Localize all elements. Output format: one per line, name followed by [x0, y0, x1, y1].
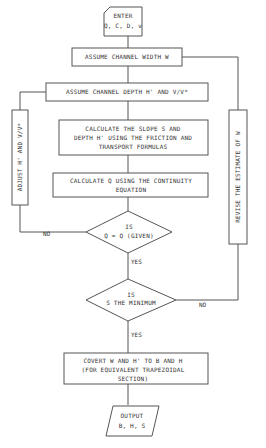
decision-q-diamond: IS Q = Q (GIVEN) — [86, 211, 172, 253]
assume-depth-label: ASSUME CHANNEL DEPTH H' AND V/V* — [66, 88, 188, 95]
assume-width-label: ASSUME CHANNEL WIDTH W — [85, 53, 169, 60]
adjust-box: ADJUST H' AND V/V* — [12, 110, 28, 205]
decision-q-no-label: NO — [43, 230, 51, 237]
assume-width-box: ASSUME CHANNEL WIDTH W — [72, 48, 182, 66]
connector-decision-s-no — [176, 244, 238, 300]
decision-s-no-label: NO — [199, 301, 207, 308]
connector-decision-q-no — [20, 205, 86, 232]
convert-line3: SECTION) — [118, 375, 149, 382]
convert-box: COVERT W AND H' TO B AND H (FOR EQUIVALE… — [64, 353, 208, 384]
calc-q-line2: EQUATION — [116, 186, 147, 193]
decision-q-yes-label: YES — [131, 258, 142, 265]
calc-slope-line2: DEPTH H' USING THE FRICTION AND — [74, 134, 192, 141]
start-node: ENTER Q, C, D, ν — [104, 7, 142, 36]
output-node: OUTPUT B, H, S — [106, 406, 159, 436]
flowchart: ENTER Q, C, D, ν ASSUME CHANNEL WIDTH W … — [0, 0, 266, 448]
output-line2: B, H, S — [119, 422, 146, 429]
assume-depth-box: ASSUME CHANNEL DEPTH H' AND V/V* — [46, 83, 208, 101]
convert-line1: COVERT W AND H' TO B AND H — [83, 357, 182, 364]
calc-q-line1: CALCULATE Q USING THE CONTINUITY — [70, 177, 192, 184]
decision-s-diamond: IS S THE MINIMUM — [86, 279, 176, 321]
connector-adjust-to-depth — [20, 92, 46, 110]
revise-box: REVISE THE ESTIMATE OF W — [229, 110, 247, 244]
decision-s-line1: IS — [127, 291, 135, 298]
start-line2: Q, C, D, ν — [104, 22, 142, 29]
start-line1: ENTER — [113, 12, 132, 19]
calc-slope-box: CALCULATE THE SLOPE S AND DEPTH H' USING… — [59, 120, 208, 155]
decision-q-line1: IS — [125, 223, 133, 230]
calc-slope-line1: CALCULATE THE SLOPE S AND — [85, 125, 180, 132]
revise-label: REVISE THE ESTIMATE OF W — [234, 131, 241, 223]
decision-q-line2: Q = Q (GIVEN) — [104, 232, 154, 239]
output-line1: OUTPUT — [121, 412, 144, 419]
decision-s-yes-label: YES — [131, 331, 142, 338]
calc-slope-line3: TRANSPORT FORMULAS — [99, 143, 168, 150]
calc-q-box: CALCULATE Q USING THE CONTINUITY EQUATIO… — [53, 173, 208, 197]
convert-line2: (FOR EQUIVALENT TRAPEZOIDAL — [82, 366, 185, 373]
adjust-label: ADJUST H' AND V/V* — [16, 123, 23, 192]
decision-s-line2: S THE MINIMUM — [106, 299, 156, 306]
